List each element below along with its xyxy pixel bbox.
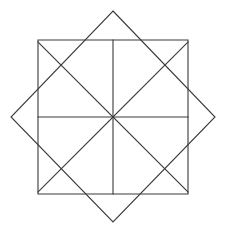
octagram-figure [0, 0, 228, 236]
figure-canvas [0, 0, 228, 236]
spoke-diagonal-up-right [113, 42, 188, 117]
spoke-diagonal-down-left [38, 117, 113, 192]
spoke-diagonal-up-left [38, 42, 113, 117]
spoke-diagonal-down-right [113, 117, 188, 192]
